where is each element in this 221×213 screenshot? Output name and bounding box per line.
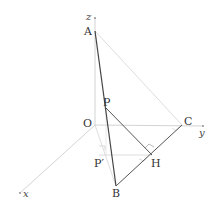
geometry-diagram: z y x O A P C H P′ B xyxy=(0,0,221,213)
right-angle-mark-H-upper xyxy=(145,144,154,148)
segment-AC xyxy=(95,31,182,125)
diagram-svg: z y x O A P C H P′ B xyxy=(0,0,221,213)
y-axis-label: y xyxy=(198,127,205,138)
z-axis-label: z xyxy=(85,11,92,22)
segment-BC xyxy=(116,125,182,186)
point-P-label: P xyxy=(103,96,111,109)
x-axis-label: x xyxy=(23,188,29,199)
point-Pprime-label: P′ xyxy=(94,157,104,170)
point-B-label: B xyxy=(112,187,120,200)
z-axis-arrow xyxy=(94,17,96,19)
point-A-label: A xyxy=(83,25,93,38)
point-C-label: C xyxy=(184,115,192,128)
right-angle-mark-Pprime xyxy=(99,146,105,150)
segment-OB xyxy=(95,125,116,186)
x-axis-arrow xyxy=(19,192,21,194)
x-axis xyxy=(20,125,95,193)
point-H-label: H xyxy=(151,157,161,170)
segment-PH xyxy=(106,108,152,155)
origin-label: O xyxy=(83,117,92,130)
